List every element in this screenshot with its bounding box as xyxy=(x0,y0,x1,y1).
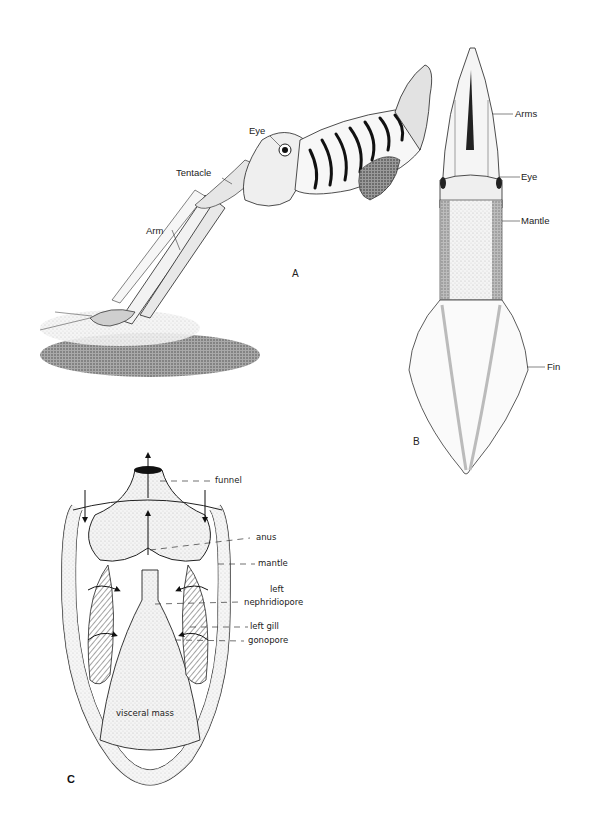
label-b-eye: Eye xyxy=(521,171,537,182)
label-a-eye: Eye xyxy=(249,125,265,136)
label-a-tentacle: Tentacle xyxy=(176,167,211,178)
label-c-mantle: mantle xyxy=(258,558,288,568)
panel-letter-c: C xyxy=(67,773,75,785)
figure-illustration xyxy=(0,0,599,830)
label-b-fin: Fin xyxy=(547,361,560,372)
label-c-funnel: funnel xyxy=(215,475,242,485)
label-c-left-nephridiopore-line1: left xyxy=(270,584,284,594)
label-c-gonopore: gonopore xyxy=(248,635,288,645)
panel-letter-a: A xyxy=(292,268,299,279)
panel-c-diagram xyxy=(62,455,231,785)
label-c-anus: anus xyxy=(256,532,276,542)
label-c-left-gill: left gill xyxy=(250,621,279,631)
panel-letter-b: B xyxy=(413,436,420,447)
label-b-mantle: Mantle xyxy=(521,215,550,226)
label-b-arms: Arms xyxy=(515,108,537,119)
panel-a-squid xyxy=(40,65,432,377)
label-c-visceral-mass: visceral mass xyxy=(116,708,174,718)
label-c-left-nephridiopore-line2: nephridiopore xyxy=(244,597,303,607)
label-a-arm: Arm xyxy=(146,225,163,236)
